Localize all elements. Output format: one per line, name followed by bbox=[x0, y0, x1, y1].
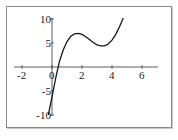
x-tick-label: -2 bbox=[17, 69, 26, 81]
x-tick-label: 2 bbox=[79, 69, 85, 81]
plot-area: -20246 105-5-10 bbox=[0, 0, 178, 140]
x-tick-label: 6 bbox=[139, 69, 145, 81]
y-tick-label: -5 bbox=[42, 85, 52, 97]
y-tick-label: 5 bbox=[46, 37, 52, 49]
y-tick-label: 10 bbox=[40, 13, 52, 25]
x-tick-label: 0 bbox=[49, 69, 55, 81]
x-tick-label: 4 bbox=[109, 69, 115, 81]
